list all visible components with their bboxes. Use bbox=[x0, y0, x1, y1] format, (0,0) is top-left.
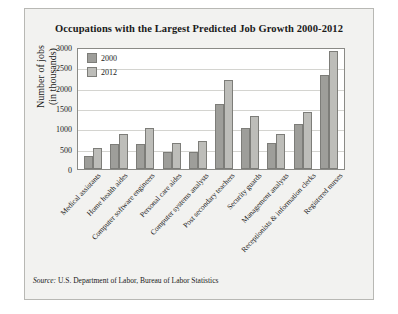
legend-swatch-2000 bbox=[87, 53, 97, 63]
source-caption: Source: U.S. Department of Labor, Bureau… bbox=[33, 276, 218, 285]
bar-2000-9 bbox=[320, 75, 329, 169]
bar-2012-7 bbox=[276, 134, 285, 169]
y-tick-label: 1000 bbox=[56, 125, 72, 134]
bar-2000-0 bbox=[84, 156, 93, 169]
bar-series-container bbox=[78, 49, 344, 169]
y-tick-label: 2000 bbox=[56, 84, 72, 93]
legend-label-2012: 2012 bbox=[101, 68, 117, 77]
bar-group bbox=[163, 49, 181, 169]
bar-group bbox=[215, 49, 233, 169]
bar-2012-4 bbox=[198, 141, 207, 169]
source-prefix: Source: bbox=[33, 276, 56, 285]
legend-item-2012: 2012 bbox=[87, 67, 117, 77]
bar-2012-3 bbox=[172, 143, 181, 169]
bar-2012-1 bbox=[119, 134, 128, 169]
source-text: U.S. Department of Labor, Bureau of Labo… bbox=[58, 276, 219, 285]
y-tick-label: 500 bbox=[60, 145, 72, 154]
y-tick-label: 2500 bbox=[56, 64, 72, 73]
bar-group bbox=[189, 49, 207, 169]
bar-2000-6 bbox=[241, 128, 250, 169]
y-axis-ticks: 050010001500200025003000 bbox=[25, 48, 75, 170]
legend-label-2000: 2000 bbox=[101, 54, 117, 63]
y-tick-label: 3000 bbox=[56, 44, 72, 53]
bar-2000-3 bbox=[163, 152, 172, 169]
bar-2000-4 bbox=[189, 152, 198, 169]
bar-group bbox=[241, 49, 259, 169]
chart-title: Occupations with the Largest Predicted J… bbox=[25, 23, 373, 34]
plot-area bbox=[77, 48, 345, 170]
bar-2012-2 bbox=[145, 128, 154, 169]
bar-2000-2 bbox=[136, 144, 145, 169]
bar-group bbox=[320, 49, 338, 169]
bar-2012-8 bbox=[303, 112, 312, 169]
y-tick-label: 0 bbox=[68, 166, 72, 175]
bar-2000-8 bbox=[294, 124, 303, 169]
bar-2012-0 bbox=[93, 148, 102, 169]
legend-item-2000: 2000 bbox=[87, 53, 117, 63]
x-axis-labels: Medical assistantsHome health aidesCompu… bbox=[77, 171, 345, 173]
bar-2012-9 bbox=[329, 51, 338, 169]
bar-2000-7 bbox=[267, 143, 276, 169]
chart-figure: Occupations with the Largest Predicted J… bbox=[24, 8, 374, 300]
bar-group bbox=[267, 49, 285, 169]
bar-2000-1 bbox=[110, 144, 119, 169]
x-tick-label: Management analysts bbox=[240, 171, 291, 225]
chart-legend: 20002012 bbox=[87, 53, 117, 77]
legend-swatch-2012 bbox=[87, 67, 97, 77]
y-tick-label: 1500 bbox=[56, 105, 72, 114]
bar-2000-5 bbox=[215, 104, 224, 169]
bar-group bbox=[136, 49, 154, 169]
bar-group bbox=[294, 49, 312, 169]
bar-2012-5 bbox=[224, 80, 233, 169]
bar-2012-6 bbox=[250, 116, 259, 169]
